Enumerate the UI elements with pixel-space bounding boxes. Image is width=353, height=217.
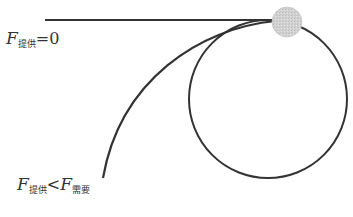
force-symbol: F: [60, 174, 72, 194]
force-symbol: F: [6, 28, 18, 48]
circular-path: [189, 20, 347, 178]
ball: [272, 7, 302, 37]
label-force-zero: F提供=0: [6, 30, 59, 47]
subscript-provided: 提供: [29, 185, 47, 195]
subscript-provided: 提供: [18, 39, 36, 49]
equals-zero: =0: [36, 29, 60, 48]
less-than-sign: <: [47, 175, 60, 194]
label-force-less: F提供<F需要: [17, 176, 90, 193]
subscript-required: 需要: [72, 185, 90, 195]
force-symbol: F: [17, 174, 29, 194]
